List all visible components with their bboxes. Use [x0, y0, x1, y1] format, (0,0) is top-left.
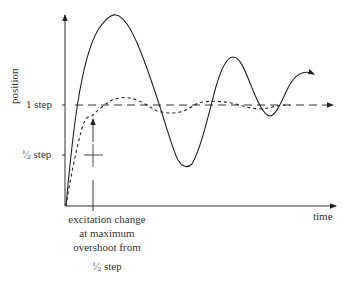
- frac-num: 1: [22, 148, 26, 156]
- annotation-line-2: at maximum: [60, 226, 154, 240]
- dashed-controlled-curve: [66, 98, 290, 206]
- y-tick-label-1-step: 1 step: [26, 98, 52, 110]
- annotation-line-3: overshoot from: [60, 240, 154, 254]
- annotation-line-1: excitation change: [60, 212, 154, 226]
- frac-den: 2: [98, 265, 102, 273]
- y-tick-label-half-step: 1⁄2 step: [22, 148, 51, 161]
- annotation-line-4: 1⁄2 step: [60, 257, 154, 276]
- frac-num: 1: [92, 260, 96, 268]
- x-axis-label: time: [313, 210, 333, 222]
- y-axis-label: position: [8, 69, 20, 104]
- solid-oscillation-curve: [66, 15, 314, 206]
- diagram-canvas: [0, 0, 350, 286]
- frac-unit: step: [34, 148, 52, 160]
- excitation-annotation: excitation change at maximum overshoot f…: [60, 212, 154, 276]
- frac-den: 2: [27, 153, 31, 161]
- frac-unit: step: [104, 260, 122, 272]
